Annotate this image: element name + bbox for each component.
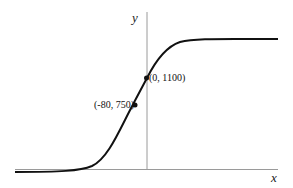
x-axis-label: x bbox=[270, 170, 277, 185]
point-label-0-1100: (0, 1100) bbox=[149, 72, 185, 84]
point-label-neg80-750: (-80, 750) bbox=[94, 99, 134, 111]
chart: (0, 1100) (-80, 750) y x bbox=[0, 0, 293, 188]
y-axis-label: y bbox=[130, 10, 138, 25]
